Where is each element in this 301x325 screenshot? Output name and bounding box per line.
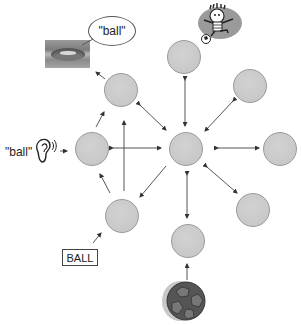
edge-center-bottom-right — [207, 167, 237, 193]
node-center — [169, 132, 203, 166]
ear-icon — [34, 138, 58, 164]
node-upper-left — [104, 73, 138, 107]
edge-lower-left-left — [100, 174, 110, 193]
teeth-shape — [60, 51, 76, 55]
edge-center-top-right — [205, 101, 233, 131]
node-top-right — [233, 69, 267, 103]
edge-upper-left-center — [140, 105, 166, 130]
speech-bubble-text: "ball" — [98, 24, 125, 38]
edge-upper-left-lips — [96, 72, 105, 79]
written-word-box: BALL — [62, 249, 98, 266]
spoken-word-label: "ball" — [5, 145, 32, 159]
node-lower-left — [105, 199, 139, 233]
soccer-ball-icon — [160, 279, 208, 323]
node-left — [75, 132, 109, 166]
speech-bubble: "ball" — [88, 16, 136, 46]
child-kicking-ball-icon — [195, 2, 243, 44]
node-right — [263, 132, 297, 166]
edge-written-lower-left — [93, 233, 101, 243]
written-word-text: BALL — [67, 252, 94, 264]
node-bottom-right — [236, 193, 270, 227]
edge-center-lower-left — [140, 166, 166, 197]
node-bottom — [171, 224, 205, 258]
edge-left-upper-left — [96, 112, 104, 127]
node-top — [167, 40, 201, 74]
